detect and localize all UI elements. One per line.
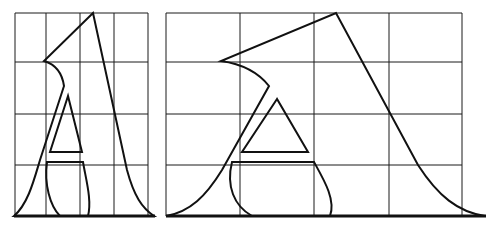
narrow-a-counter-triangle <box>50 96 82 152</box>
wide-a-bowl <box>230 162 332 216</box>
narrow-grid <box>15 13 148 216</box>
wide-a-counter-triangle <box>242 99 308 152</box>
letter-a-construction-diagram <box>0 0 498 229</box>
wide-letter-a-panel <box>166 13 486 216</box>
narrow-letter-a-panel <box>14 13 155 216</box>
narrow-a-bowl <box>46 162 89 216</box>
